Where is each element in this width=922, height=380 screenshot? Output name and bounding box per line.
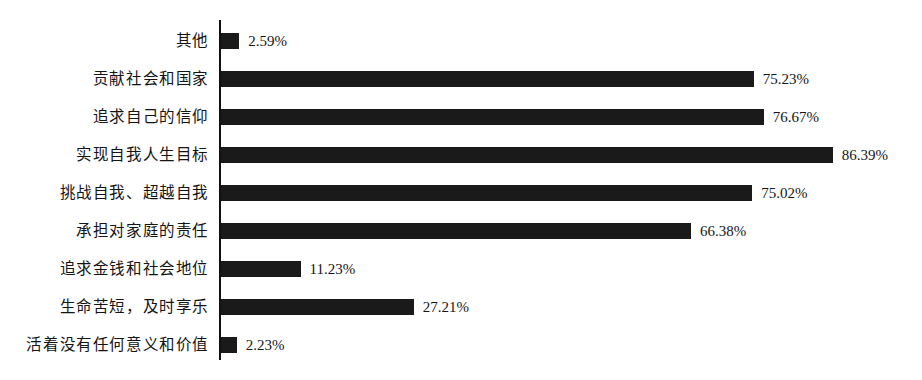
bar-row: 生命苦短，及时享乐27.21% bbox=[0, 288, 922, 326]
bar-value-label: 75.23% bbox=[763, 60, 809, 98]
bar bbox=[221, 109, 764, 125]
bar-row: 追求自己的信仰76.67% bbox=[0, 98, 922, 136]
bar bbox=[221, 261, 301, 277]
bar-row: 实现自我人生目标86.39% bbox=[0, 136, 922, 174]
bar-row: 追求金钱和社会地位11.23% bbox=[0, 250, 922, 288]
bar-track: 2.59% bbox=[221, 22, 922, 60]
category-label: 追求自己的信仰 bbox=[0, 98, 209, 136]
bar-value-label: 86.39% bbox=[842, 136, 888, 174]
bar-value-label: 66.38% bbox=[700, 212, 746, 250]
category-label: 活着没有任何意义和价值 bbox=[0, 326, 209, 364]
bar-value-label: 11.23% bbox=[310, 250, 356, 288]
category-label: 挑战自我、超越自我 bbox=[0, 174, 209, 212]
bar-row: 活着没有任何意义和价值2.23% bbox=[0, 326, 922, 364]
bar bbox=[221, 185, 752, 201]
bar-value-label: 2.23% bbox=[246, 326, 285, 364]
bar-row: 挑战自我、超越自我75.02% bbox=[0, 174, 922, 212]
bar bbox=[221, 337, 237, 353]
category-label: 实现自我人生目标 bbox=[0, 136, 209, 174]
bar bbox=[221, 147, 833, 163]
bar-track: 2.23% bbox=[221, 326, 922, 364]
bar-track: 75.02% bbox=[221, 174, 922, 212]
bar-track: 27.21% bbox=[221, 288, 922, 326]
category-label: 其他 bbox=[0, 22, 209, 60]
bar-value-label: 27.21% bbox=[423, 288, 469, 326]
bar bbox=[221, 299, 414, 315]
bar bbox=[221, 223, 691, 239]
bar-track: 86.39% bbox=[221, 136, 922, 174]
bar-row: 承担对家庭的责任66.38% bbox=[0, 212, 922, 250]
category-label: 追求金钱和社会地位 bbox=[0, 250, 209, 288]
bar-track: 66.38% bbox=[221, 212, 922, 250]
bar-row: 其他2.59% bbox=[0, 22, 922, 60]
bar bbox=[221, 71, 754, 87]
category-label: 贡献社会和国家 bbox=[0, 60, 209, 98]
bar-track: 75.23% bbox=[221, 60, 922, 98]
category-label: 承担对家庭的责任 bbox=[0, 212, 209, 250]
bar bbox=[221, 33, 239, 49]
bar-track: 11.23% bbox=[221, 250, 922, 288]
horizontal-bar-chart: 其他2.59%贡献社会和国家75.23%追求自己的信仰76.67%实现自我人生目… bbox=[0, 0, 922, 380]
bar-value-label: 75.02% bbox=[761, 174, 807, 212]
bar-value-label: 2.59% bbox=[248, 22, 287, 60]
bar-row: 贡献社会和国家75.23% bbox=[0, 60, 922, 98]
bar-track: 76.67% bbox=[221, 98, 922, 136]
category-label: 生命苦短，及时享乐 bbox=[0, 288, 209, 326]
bar-value-label: 76.67% bbox=[773, 98, 819, 136]
